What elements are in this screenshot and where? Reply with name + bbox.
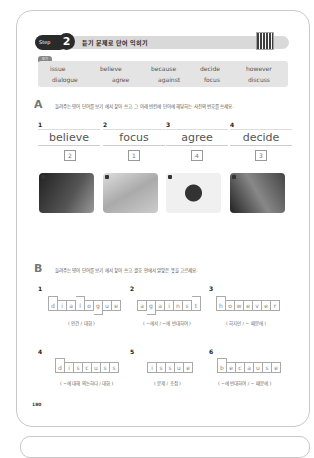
letter-box[interactable]: s [183,300,192,311]
question-number: 4 [230,121,234,128]
word-bank-word: because [151,65,176,72]
letter-box[interactable]: s [157,362,166,373]
section-b-instruction: 들려주는 영어 단어를 보기 에서 찾아 쓰고, 괄호 안에서 알맞은 뜻을 고… [55,267,198,273]
letter-box[interactable]: e [112,300,121,311]
letter-box[interactable]: w [235,300,244,311]
question-number: 1 [38,285,42,292]
letter-box[interactable]: s [74,362,83,373]
letter-box[interactable]: e [272,362,281,373]
letter-box[interactable]: e [184,362,193,373]
photo-1 [39,173,94,213]
question-number: 3 [166,121,170,128]
letter-box[interactable]: g [94,300,103,315]
letter-box[interactable]: i [165,300,174,311]
question-number: 4 [38,348,42,355]
letter-boxes-because[interactable]: b e c a u s e [217,362,281,373]
page-number: 180 [32,402,41,407]
word-bank-word: agree [112,76,129,83]
letter-box[interactable]: i [65,362,74,373]
word-bank-word: focus [204,76,220,83]
letter-box[interactable]: a [156,300,165,311]
section-a-letter: A [34,98,43,111]
letter-box[interactable]: d [55,358,65,373]
letter-box[interactable]: c [236,362,245,373]
word-bank-word: believe [100,65,122,72]
photo-number-box[interactable]: 3 [255,150,267,161]
letter-boxes-dialogue[interactable]: d i a l o g u e [48,300,121,315]
photo-4 [230,173,285,213]
letter-box[interactable]: d [48,296,58,311]
question-number: 2 [103,121,107,128]
letter-box[interactable]: u [175,362,184,373]
letter-box[interactable]: s [110,362,119,373]
word-bank-word: dialogue [52,76,78,83]
letter-boxes-issue[interactable]: i s s u e [147,362,193,373]
next-page-edge [20,436,310,458]
letter-box[interactable]: t [192,296,201,311]
letter-box[interactable]: o [85,300,94,311]
question-number: 5 [130,348,134,355]
letter-box[interactable]: r [271,300,280,311]
meaning-choice[interactable]: ( ~에 대해 의논하다 / 대화 ) [60,380,113,386]
photo-number-box[interactable]: 1 [128,150,140,161]
letter-boxes-however[interactable]: h o w e v e r [216,300,280,311]
photo-tag [41,175,45,179]
letter-box[interactable]: u [92,362,101,373]
section-b-letter: B [34,262,42,275]
meaning-choice[interactable]: ( 안건 / 대화 ) [68,320,95,326]
letter-box[interactable]: l [76,296,85,311]
letter-box[interactable]: a [245,362,254,373]
question-number: 3 [209,285,213,292]
photo-tag [168,175,172,179]
section-a-instruction: 들려주는 영어 단어를 보기 에서 찾아 쓰고, 그 아래 빈칸에 단어에 해당… [55,103,234,109]
step-number: 2 [58,33,75,50]
meaning-choice[interactable]: ( 하지만 / ~ 때문에 ) [226,320,266,326]
photo-2 [103,173,158,213]
letter-box[interactable]: o [226,300,235,311]
word-bank: issue believe because decide however dia… [38,61,288,87]
letter-box[interactable]: s [101,362,110,373]
photo-tag [105,175,109,179]
word-bank-word: however [246,65,272,72]
question-number: 6 [209,348,213,355]
answer-blank[interactable]: decide [230,129,292,146]
word-bank-word: against [158,76,180,83]
word-bank-word: issue [50,65,65,72]
meaning-choice[interactable]: ( ~에서 / ~에 반대하여 ) [143,320,191,326]
letter-box[interactable]: u [103,300,112,311]
step-title: 듣기 문제로 단어 익히기 [82,38,148,47]
letter-box[interactable]: s [166,362,175,373]
meaning-choice[interactable]: ( ~에 반대하여 / ~ 때문에 ) [218,380,271,386]
photo-3 [166,173,221,213]
letter-box[interactable]: e [227,362,236,373]
letter-box[interactable]: e [244,300,253,311]
letter-box[interactable]: g [147,300,156,315]
word-bank-word: decide [200,65,220,72]
letter-box[interactable]: c [83,362,92,373]
letter-box[interactable]: n [174,300,183,311]
qr-code-icon[interactable] [256,32,274,50]
letter-box[interactable]: v [253,300,262,311]
answer-blank[interactable]: agree [166,129,228,146]
word-bank-word: discuss [248,76,270,83]
letter-box[interactable]: e [262,300,271,311]
letter-box[interactable]: s [263,362,272,373]
letter-boxes-discuss[interactable]: d i s c u s s [55,362,119,373]
letter-box[interactable]: b [217,358,227,373]
letter-box[interactable]: h [216,296,226,311]
answer-blank[interactable]: focus [103,129,165,146]
photo-tag [232,175,236,179]
letter-box[interactable]: u [254,362,263,373]
letter-box[interactable]: a [137,300,147,311]
letter-box[interactable]: i [58,300,67,311]
meaning-choice[interactable]: ( 문제 / 초점 ) [154,380,181,386]
question-number: 2 [130,285,134,292]
photo-number-box[interactable]: 4 [191,150,203,161]
letter-boxes-against[interactable]: a g a i n s t [137,300,201,315]
letter-box[interactable]: i [147,362,157,373]
question-number: 1 [38,121,42,128]
letter-box[interactable]: a [67,300,76,311]
photo-number-box[interactable]: 2 [64,150,76,161]
answer-blank[interactable]: believe [38,129,100,146]
